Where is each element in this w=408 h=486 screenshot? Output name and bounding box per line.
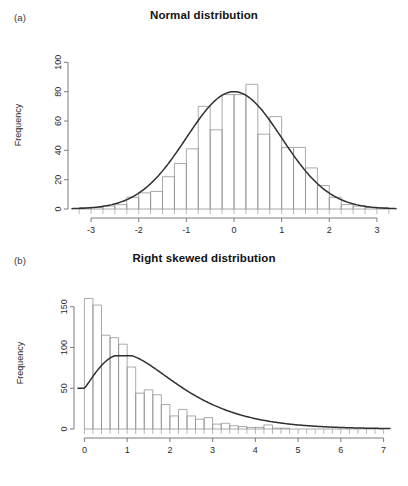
histogram-bar (258, 134, 270, 209)
histogram-bar (144, 390, 153, 429)
x-axis-tick-label: 0 (231, 225, 236, 235)
histogram-bar (196, 419, 205, 429)
histogram-bar (270, 117, 282, 209)
histogram-bars (79, 84, 389, 209)
histogram-bar (127, 367, 136, 429)
x-axis-tick-label: 5 (296, 445, 301, 455)
histogram-bars (84, 299, 289, 429)
x-axis-tick-label: 4 (253, 445, 258, 455)
y-axis-tick-label: 40 (53, 145, 63, 155)
y-axis-label-b: Frequency (15, 327, 25, 399)
histogram-bar (198, 106, 210, 209)
histogram-bar (187, 416, 196, 429)
histogram-bar (222, 95, 234, 209)
y-axis-tick-label: 50 (59, 383, 69, 393)
histogram-bar (84, 299, 93, 429)
x-axis-tick-label: 3 (374, 225, 379, 235)
histogram-bar (170, 416, 179, 429)
histogram-bar (210, 130, 222, 209)
y-axis-tick-label: 0 (59, 426, 69, 431)
histogram-bar (119, 344, 128, 429)
x-axis-tick-label: 7 (381, 445, 386, 455)
y-axis-tick-label: 80 (53, 87, 63, 97)
histogram-bar (163, 177, 175, 209)
x-axis-tick-label: 3 (210, 445, 215, 455)
y-axis-tick-label: 20 (53, 175, 63, 185)
x-axis-tick-label: 6 (338, 445, 343, 455)
histogram-bar (213, 424, 222, 429)
histogram-bar (178, 409, 187, 429)
x-axis-tick-label: 0 (82, 445, 87, 455)
histogram-bar (102, 335, 111, 429)
y-axis-tick-label: 0 (53, 206, 63, 211)
histogram-bar (115, 205, 127, 209)
x-axis-tick-label: -3 (87, 225, 95, 235)
histogram-bar (153, 395, 162, 429)
x-axis-tick-label: 1 (279, 225, 284, 235)
histogram-bar (264, 425, 273, 429)
histogram-bar (136, 393, 145, 429)
histogram-bar (110, 338, 119, 429)
figure-root: (a) Normal distribution Frequency 020406… (0, 0, 408, 486)
y-axis-tick-label: 100 (53, 55, 63, 70)
histogram-bar (234, 95, 246, 209)
plot-area-a: 020406080100-3-2-10123 (0, 0, 408, 243)
histogram-bar (230, 426, 239, 429)
y-axis-tick-label: 100 (59, 340, 69, 355)
histogram-bar (341, 205, 353, 209)
histogram-bar (139, 193, 151, 209)
y-axis-tick-label: 60 (53, 116, 63, 126)
histogram-bar (151, 191, 163, 209)
x-axis-tick-label: 1 (125, 445, 130, 455)
x-axis-bin-ticks (79, 209, 389, 214)
histogram-bar (282, 147, 294, 209)
y-axis-tick-label: 150 (59, 299, 69, 314)
x-axis-tick-label: -1 (182, 225, 190, 235)
x-axis-bin-ticks (84, 429, 383, 434)
x-axis-tick-label: 2 (327, 225, 332, 235)
histogram-bar (174, 164, 186, 209)
plot-area-b: 05010015001234567 (0, 243, 408, 486)
histogram-bar (221, 423, 230, 429)
histogram-bar (186, 149, 198, 209)
x-axis-tick-label: -2 (135, 225, 143, 235)
panel-normal-distribution: (a) Normal distribution Frequency 020406… (0, 0, 408, 243)
histogram-bar (161, 405, 170, 429)
x-axis-tick-label: 2 (167, 445, 172, 455)
histogram-bar (204, 418, 213, 429)
density-curve (78, 356, 390, 429)
panel-right-skewed-distribution: (b) Right skewed distribution 0501001500… (0, 243, 408, 486)
